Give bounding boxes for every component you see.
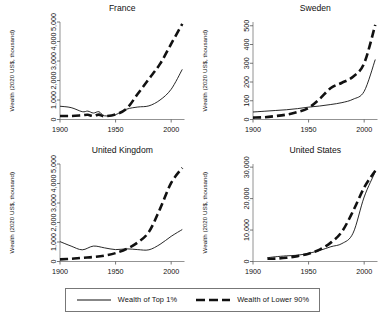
panel-united-states: United States010,00020,00030,000Wealth (… <box>193 142 385 284</box>
chart-france: France01,0002,0003,0004,0005,000Wealth (… <box>0 0 193 142</box>
chart-axes <box>253 164 378 262</box>
chart-title: France <box>109 3 136 13</box>
panel-grid: France01,0002,0003,0004,0005,000Wealth (… <box>0 0 385 283</box>
legend-entry-top1: Wealth of Top 1% <box>76 295 177 304</box>
y-axis-title: Wealth (2020 US$, thousand) <box>201 172 208 253</box>
chart-title: Sweden <box>299 3 330 13</box>
y-tick-label: 1,000 <box>49 91 58 109</box>
series-line-lower90 <box>60 24 182 116</box>
legend-box: Wealth of Top 1% Wealth of Lower 90% <box>65 288 320 312</box>
series-line-lower90 <box>60 167 182 258</box>
y-axis-title: Wealth (2020 US$, thousand) <box>8 30 15 111</box>
y-tick-label: 30,000 <box>242 156 251 178</box>
x-tick-label: 1950 <box>300 266 316 275</box>
x-tick-label: 1950 <box>300 125 316 134</box>
chart-united_states: United States010,00020,00030,000Wealth (… <box>193 142 385 284</box>
y-tick-label: 200 <box>242 76 251 88</box>
series-line-top1 <box>267 171 375 257</box>
y-tick-label: 300 <box>242 57 251 69</box>
y-tick-label: 0 <box>242 259 251 263</box>
y-tick-label: 5,000 <box>49 13 58 31</box>
y-tick-label: 0 <box>49 259 58 263</box>
y-tick-label: 0 <box>49 118 58 122</box>
x-tick-label: 2000 <box>356 266 372 275</box>
y-axis-title: Wealth (2020 US$, thousand) <box>201 30 208 111</box>
y-tick-label: 4,000 <box>49 174 58 192</box>
y-tick-label: 10,000 <box>242 219 251 241</box>
wealth-comparison-figure: France01,0002,0003,0004,0005,000Wealth (… <box>0 0 385 316</box>
y-tick-label: 0 <box>242 118 251 122</box>
x-tick-label: 2000 <box>163 125 179 134</box>
chart-title: United States <box>289 145 341 155</box>
legend-label-top1: Wealth of Top 1% <box>118 295 177 304</box>
chart-sweden: Sweden0100200300400500Wealth (2020 US$, … <box>193 0 385 142</box>
x-tick-label: 1900 <box>52 266 68 275</box>
y-tick-label: 4,000 <box>49 33 58 51</box>
series-line-top1 <box>60 229 182 250</box>
legend-swatch-solid <box>76 296 112 304</box>
y-tick-label: 3,000 <box>49 194 58 212</box>
chart-axes <box>60 22 185 120</box>
y-tick-label: 1,000 <box>49 233 58 251</box>
y-tick-label: 3,000 <box>49 52 58 70</box>
x-tick-label: 1950 <box>108 266 124 275</box>
y-tick-label: 100 <box>242 95 251 107</box>
y-axis-title: Wealth (2020 US$, thousand) <box>8 172 15 253</box>
series-line-top1 <box>60 69 182 116</box>
y-tick-label: 500 <box>242 20 251 32</box>
figure-legend: Wealth of Top 1% Wealth of Lower 90% <box>0 283 385 316</box>
x-tick-label: 1900 <box>245 125 261 134</box>
series-line-lower90 <box>253 25 375 118</box>
x-tick-label: 1900 <box>245 266 261 275</box>
chart-axes <box>60 164 185 262</box>
x-tick-label: 1900 <box>52 125 68 134</box>
chart-title: United Kingdom <box>92 145 153 155</box>
y-tick-label: 5,000 <box>49 155 58 173</box>
x-tick-label: 1950 <box>108 125 124 134</box>
legend-label-lower90: Wealth of Lower 90% <box>237 295 309 304</box>
chart-united_kingdom: United Kingdom01,0002,0003,0004,0005,000… <box>0 142 193 284</box>
legend-entry-lower90: Wealth of Lower 90% <box>195 295 309 304</box>
panel-france: France01,0002,0003,0004,0005,000Wealth (… <box>0 0 193 142</box>
legend-swatch-dashed <box>195 296 231 304</box>
y-tick-label: 400 <box>242 39 251 51</box>
y-tick-label: 20,000 <box>242 187 251 209</box>
x-tick-label: 2000 <box>356 125 372 134</box>
panel-sweden: Sweden0100200300400500Wealth (2020 US$, … <box>193 0 385 142</box>
y-tick-label: 2,000 <box>49 72 58 90</box>
y-tick-label: 2,000 <box>49 213 58 231</box>
panel-united-kingdom: United Kingdom01,0002,0003,0004,0005,000… <box>0 142 193 284</box>
x-tick-label: 2000 <box>163 266 179 275</box>
